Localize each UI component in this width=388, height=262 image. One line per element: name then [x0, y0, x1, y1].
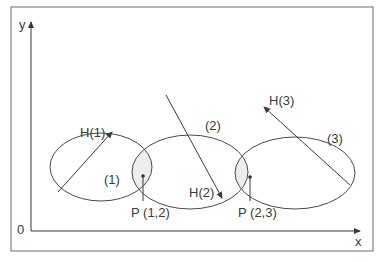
- coverage-diagram: y x 0 (1) (2) (3) H(1) H(2) H(3) P (1,2)…: [0, 0, 388, 262]
- h3-arrow: [264, 107, 350, 185]
- point-p12-label: P (1,2): [131, 205, 170, 220]
- h1-label: H(1): [80, 125, 105, 140]
- region-1-label: (1): [104, 172, 120, 187]
- x-axis-label: x: [355, 234, 362, 249]
- origin-label: 0: [17, 222, 24, 237]
- y-axis-label: y: [19, 17, 26, 32]
- diagram-frame: [11, 7, 373, 251]
- h3-label: H(3): [269, 93, 294, 108]
- h2-label: H(2): [189, 185, 214, 200]
- region-2-label: (2): [205, 118, 221, 133]
- region-3-label: (3): [327, 131, 343, 146]
- point-p23-label: P (2,3): [238, 205, 277, 220]
- h2-arrow: [166, 95, 222, 198]
